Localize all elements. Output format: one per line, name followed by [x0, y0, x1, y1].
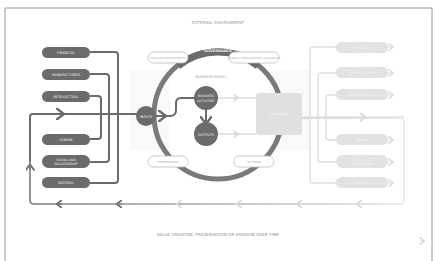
outcomes-box: OUTCOMES	[256, 93, 302, 135]
capital-natural-left: NATURAL	[42, 177, 90, 188]
svg-text:SOCIAL AND: SOCIAL AND	[56, 158, 76, 162]
svg-text:INTELLECTUAL: INTELLECTUAL	[350, 93, 375, 97]
capital-human-left: HUMAN	[42, 134, 90, 145]
svg-text:RELATIONSHIP: RELATIONSHIP	[54, 162, 77, 166]
business-activities-node: BUSINESS ACTIVITIES	[194, 86, 218, 110]
capital-intellectual-left: INTELLECTUAL	[42, 91, 90, 102]
capital-social-relationship-right: SOCIAL AND RELATIONSHIP	[336, 155, 392, 168]
svg-text:HUMAN: HUMAN	[356, 138, 369, 142]
external-environment-label: EXTERNAL ENVIRONMENT	[192, 20, 245, 25]
outputs-node: OUTPUTS	[194, 122, 218, 146]
svg-text:OUTPUTS: OUTPUTS	[198, 133, 214, 137]
svg-text:INTELLECTUAL: INTELLECTUAL	[54, 95, 79, 99]
capital-manufactured-right: MANUFACTURED	[336, 67, 392, 78]
svg-text:FINANCIAL: FINANCIAL	[353, 46, 371, 50]
pill-risks-opportunities: RISKS AND OPPORTUNITIES	[148, 52, 188, 63]
svg-text:INPUTS: INPUTS	[140, 115, 152, 119]
svg-text:STRATEGY AND RESOURCE ALLOCATI: STRATEGY AND RESOURCE ALLOCATION	[228, 57, 280, 60]
svg-text:OUTLOOK: OUTLOOK	[247, 160, 261, 164]
capital-financial-right: FINANCIAL	[336, 42, 392, 53]
svg-text:RISKS AND OPPORTUNITIES: RISKS AND OPPORTUNITIES	[150, 57, 186, 60]
capital-intellectual-right: INTELLECTUAL	[336, 89, 392, 100]
svg-text:NATURAL: NATURAL	[58, 181, 74, 185]
pill-performance: PERFORMANCE	[148, 156, 188, 167]
capital-manufactured-left: MANUFACTURED	[42, 69, 90, 80]
svg-text:OUTCOMES: OUTCOMES	[270, 112, 288, 116]
svg-text:FINANCIAL: FINANCIAL	[57, 51, 75, 55]
pill-strategy-resource-allocation: STRATEGY AND RESOURCE ALLOCATION	[228, 52, 280, 63]
governance-label: GOVERNANCE	[204, 49, 232, 53]
capital-human-right: HUMAN	[336, 134, 392, 145]
svg-text:MANUFACTURED: MANUFACTURED	[348, 71, 377, 75]
svg-text:ACTIVITIES: ACTIVITIES	[197, 99, 214, 103]
value-creation-diagram: EXTERNAL ENVIRONMENT GOVERNANCE BUSINESS…	[0, 0, 437, 261]
svg-text:BUSINESS: BUSINESS	[198, 94, 214, 98]
svg-text:NATURAL: NATURAL	[354, 181, 370, 185]
timeline: VALUE CREATION, PRESERVATION OR EROSION …	[12, 232, 423, 241]
svg-text:PERFORMANCE: PERFORMANCE	[157, 160, 179, 164]
capital-natural-right: NATURAL	[336, 177, 392, 188]
pill-outlook: OUTLOOK	[234, 156, 274, 167]
svg-text:SOCIAL AND: SOCIAL AND	[352, 158, 372, 162]
timeline-label: VALUE CREATION, PRESERVATION OR EROSION …	[157, 232, 280, 237]
svg-text:RELATIONSHIP: RELATIONSHIP	[350, 162, 373, 166]
left-connectors	[90, 52, 118, 183]
business-model-label: BUSINESS MODEL	[195, 75, 226, 79]
svg-text:HUMAN: HUMAN	[60, 138, 73, 142]
capital-social-relationship-left: SOCIAL AND RELATIONSHIP	[42, 155, 90, 168]
inputs-node: INPUTS	[136, 106, 156, 126]
capital-financial-left: FINANCIAL	[42, 47, 90, 58]
svg-text:MANUFACTURED: MANUFACTURED	[52, 73, 81, 77]
